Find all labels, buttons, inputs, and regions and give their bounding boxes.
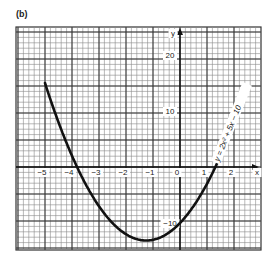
x-tick-label: −1 <box>145 168 155 177</box>
x-axis-label: x <box>255 168 259 177</box>
parabola-chart: −5−4−3−2−1012x−101020y y = 2x² + 5x − 10 <box>0 0 275 262</box>
y-axis-label: y <box>171 29 175 38</box>
y-tick-label: 20 <box>166 51 175 60</box>
y-tick-label: 10 <box>166 107 175 116</box>
x-tick-label: 2 <box>229 168 234 177</box>
x-tick-label: 1 <box>202 168 207 177</box>
x-tick-label: −2 <box>118 168 128 177</box>
x-tick-label: 0 <box>175 168 180 177</box>
x-tick-label: −3 <box>91 168 101 177</box>
x-tick-label: −5 <box>37 168 47 177</box>
x-tick-label: −4 <box>64 168 74 177</box>
